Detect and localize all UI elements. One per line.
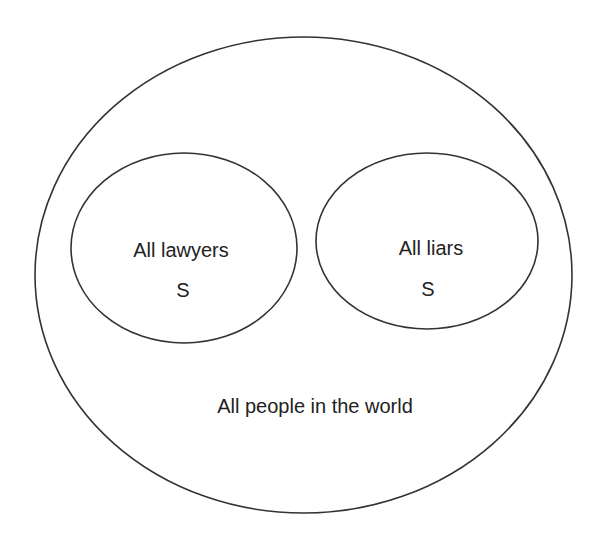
lawyers-label: All lawyers <box>133 239 229 261</box>
universe-circle <box>35 37 572 513</box>
euler-diagram: All lawyers S All liars S All people in … <box>0 0 606 539</box>
liars-label: All liars <box>399 237 463 259</box>
lawyers-marker: S <box>176 279 189 301</box>
liars-marker: S <box>421 278 434 300</box>
universe-label: All people in the world <box>217 395 413 417</box>
